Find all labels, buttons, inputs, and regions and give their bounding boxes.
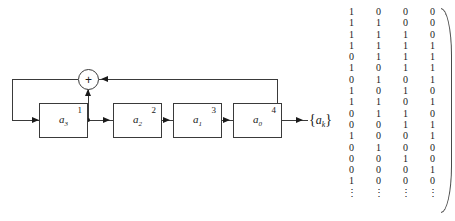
- matrix-cell: 0: [396, 96, 415, 107]
- matrix-cell: 1: [423, 40, 442, 51]
- lfsr-block-diagram: + 1 a3 2 a2 3 a1: [0, 0, 330, 221]
- matrix-cell: 1: [342, 85, 361, 96]
- matrix-cell: 1: [423, 74, 442, 85]
- matrix-row: 0111: [342, 51, 442, 62]
- matrix-cell: 1: [369, 17, 388, 28]
- arrow-into-stage-4: [223, 117, 230, 123]
- matrix-cell: 0: [369, 130, 388, 141]
- matrix-row: ⋮⋮⋮⋮: [342, 187, 442, 198]
- matrix-row: 1101: [342, 96, 442, 107]
- matrix-cell: 0: [396, 130, 415, 141]
- output-sequence-label: {ak}: [309, 113, 332, 129]
- matrix-cell: 0: [396, 175, 415, 186]
- matrix-cell: 1: [423, 164, 442, 175]
- matrix-cell: 1: [342, 175, 361, 186]
- matrix-cell: 0: [369, 164, 388, 175]
- matrix-cell: 0: [423, 153, 442, 164]
- arrow-into-adder-from-right: [101, 76, 108, 82]
- matrix-cell: 0: [396, 74, 415, 85]
- matrix-row: 1001: [342, 130, 442, 141]
- matrix-cell: 0: [423, 142, 442, 153]
- matrix-cell: 1: [423, 96, 442, 107]
- matrix-cell: 1: [423, 119, 442, 130]
- matrix-cell: 1: [396, 108, 415, 119]
- matrix-cell: 1: [369, 51, 388, 62]
- matrix-cell: 0: [369, 175, 388, 186]
- matrix-row: 1000: [342, 6, 442, 17]
- matrix-cell: 1: [396, 62, 415, 73]
- matrix-cell: 1: [396, 51, 415, 62]
- matrix-cell: ⋮: [342, 187, 361, 198]
- matrix-cell: 1: [342, 40, 361, 51]
- matrix-cell: 1: [369, 74, 388, 85]
- matrix-cell: 0: [396, 6, 415, 17]
- matrix-cell: 1: [342, 96, 361, 107]
- matrix-cell: 0: [396, 142, 415, 153]
- matrix-cell: 1: [369, 142, 388, 153]
- matrix-cell: 1: [396, 40, 415, 51]
- matrix-cell: 1: [369, 96, 388, 107]
- matrix-row: 1111: [342, 40, 442, 51]
- matrix-cell: 0: [423, 108, 442, 119]
- stage-1-label: a3: [59, 113, 68, 127]
- matrix-cell: 1: [369, 29, 388, 40]
- matrix-cell: 0: [369, 62, 388, 73]
- matrix-cell: 1: [342, 130, 361, 141]
- matrix-cell: 0: [342, 108, 361, 119]
- matrix-cell: 1: [342, 17, 361, 28]
- matrix-cell: 1: [396, 119, 415, 130]
- matrix-row: 0100: [342, 142, 442, 153]
- matrix-cell: 0: [423, 85, 442, 96]
- matrix-cell: 0: [396, 164, 415, 175]
- stage-1-box: 1 a3: [39, 103, 88, 138]
- output-open-brace: {: [309, 112, 316, 127]
- matrix-cell: 0: [342, 153, 361, 164]
- stage-1-tap-number: 1: [78, 106, 83, 115]
- matrix-cell: 1: [369, 108, 388, 119]
- matrix-cell: 1: [396, 29, 415, 40]
- matrix-cell: ⋮: [423, 187, 442, 198]
- matrix-row: 0101: [342, 74, 442, 85]
- matrix-cell: 0: [369, 85, 388, 96]
- feedback-wire-top-left: [12, 79, 78, 80]
- matrix-cell: 0: [423, 6, 442, 17]
- matrix-cell: 1: [423, 130, 442, 141]
- matrix-row: 0001: [342, 164, 442, 175]
- matrix-cell: 0: [396, 17, 415, 28]
- feedback-wire-top-right: [99, 79, 278, 80]
- matrix-cell: 1: [396, 85, 415, 96]
- matrix-cell: ⋮: [396, 187, 415, 198]
- arrow-to-output: [296, 117, 303, 123]
- matrix-cell: 1: [396, 153, 415, 164]
- matrix-row: 0011: [342, 119, 442, 130]
- matrix-cell: 1: [342, 62, 361, 73]
- stage-3-box: 3 a1: [173, 103, 222, 138]
- figure-root: + 1 a3 2 a2 3 a1: [0, 0, 455, 221]
- arrow-into-stage-2: [103, 117, 110, 123]
- matrix-row: 0010: [342, 153, 442, 164]
- matrix-row: 1011: [342, 62, 442, 73]
- stage-3-label: a1: [193, 113, 202, 127]
- matrix-row: 1000: [342, 175, 442, 186]
- matrix-cell: 0: [342, 142, 361, 153]
- matrix-row: 0110: [342, 108, 442, 119]
- modulo-2-adder: +: [78, 69, 99, 90]
- arrow-into-adder-from-below: [85, 89, 91, 96]
- stage-4-label: a0: [253, 113, 262, 127]
- matrix-cell: 0: [342, 164, 361, 175]
- matrix-cell: 0: [369, 119, 388, 130]
- stage-3-tap-number: 3: [212, 106, 217, 115]
- stage-2-label: a2: [133, 113, 142, 127]
- matrix-cell: 0: [342, 51, 361, 62]
- matrix-cell: 0: [423, 175, 442, 186]
- matrix-row: 1010: [342, 85, 442, 96]
- matrix-cell: 1: [342, 6, 361, 17]
- arrow-into-stage-1: [32, 117, 39, 123]
- matrix-right-bracket: [441, 8, 452, 213]
- matrix-cell: 0: [342, 74, 361, 85]
- stage-2-box: 2 a2: [113, 103, 162, 138]
- feedback-wire-left-vertical: [12, 79, 13, 120]
- matrix-cell: 1: [342, 29, 361, 40]
- matrix-cell: 0: [369, 6, 388, 17]
- plus-icon: +: [85, 74, 92, 86]
